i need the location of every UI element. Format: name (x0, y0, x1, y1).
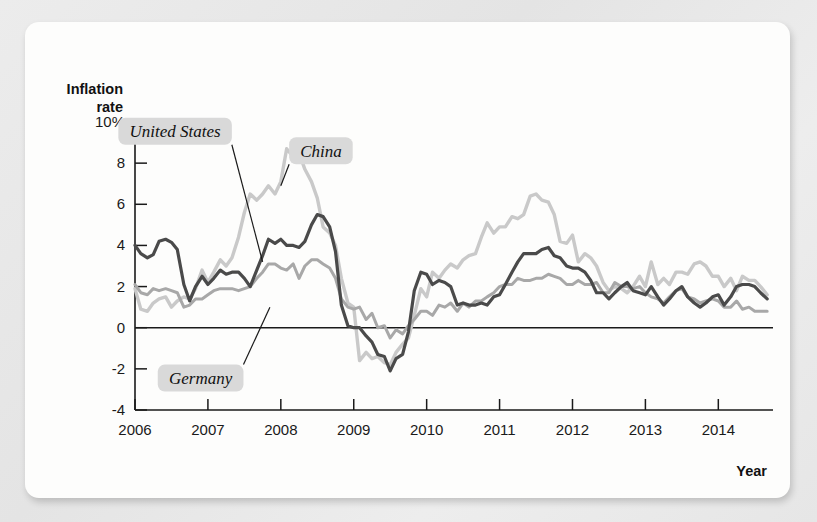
chart-card: Inflationrate10%86420-2-4200620072008200… (25, 22, 790, 498)
y-axis-tick-label: 8 (117, 154, 125, 171)
x-axis-tick-label: 2007 (191, 421, 224, 438)
x-axis-title: Year (736, 463, 767, 479)
x-axis-tick-label: 2011 (483, 421, 515, 438)
y-axis-tick-label: 4 (117, 236, 125, 253)
y-axis-tick-label: 6 (117, 195, 125, 212)
x-axis-tick-label: 2009 (337, 421, 370, 438)
x-axis-tick-label: 2013 (629, 421, 662, 438)
inflation-rate-line-chart: Inflationrate10%86420-2-4200620072008200… (25, 22, 790, 498)
x-axis-tick-label: 2006 (118, 421, 151, 438)
x-axis-tick-label: 2012 (556, 421, 589, 438)
series-label-text: Germany (169, 369, 233, 388)
x-axis-tick-label: 2014 (702, 421, 735, 438)
y-axis-tick-label: 0 (117, 319, 125, 336)
x-axis-tick-label: 2008 (264, 421, 297, 438)
y-axis-tick-label: 2 (117, 278, 125, 295)
chart-svg: Inflationrate10%86420-2-4200620072008200… (25, 22, 790, 498)
series-line-china (135, 149, 767, 365)
y-axis-tick-label: -2 (112, 360, 125, 377)
x-axis-tick-label: 2010 (410, 421, 443, 438)
callout-leader-line (243, 307, 269, 364)
series-label-text: United States (130, 122, 222, 141)
series-line-united_states (135, 215, 767, 371)
y-axis-tick-label: -4 (112, 401, 125, 418)
y-axis-title-line1: Inflation (67, 81, 123, 97)
series-label-text: China (300, 142, 342, 161)
